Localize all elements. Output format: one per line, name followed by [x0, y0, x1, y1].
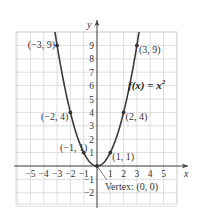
vertex-leader-line: [97, 166, 107, 180]
x-tick-label: 1: [108, 169, 113, 179]
data-point-marker: [69, 111, 73, 115]
y-tick-label: 5: [89, 95, 94, 105]
y-tick-label: 6: [89, 81, 94, 91]
y-tick-label: 9: [89, 41, 94, 51]
x-tick-label: −4: [39, 169, 49, 179]
point-label: (−3, 9): [28, 39, 55, 51]
point-label: Vertex: (0, 0): [105, 181, 158, 193]
point-label: (−1, 1): [60, 142, 87, 154]
x-tick-label: 4: [148, 169, 153, 179]
y-tick-label: 1: [89, 148, 94, 158]
y-tick-label: 8: [89, 54, 94, 64]
function-label: f(x) = x2: [128, 78, 166, 92]
y-tick-label: 2: [89, 135, 94, 145]
parabola-chart: −5−4−3−2−112345−2−1123456789 (−3, 9)(−2,…: [0, 0, 199, 213]
x-tick-label: 2: [121, 169, 126, 179]
point-label: (1, 1): [112, 151, 134, 163]
x-tick-label: 3: [135, 169, 140, 179]
x-tick-label: −5: [25, 169, 35, 179]
x-axis-label: x: [183, 168, 189, 179]
x-tick-label: −3: [52, 169, 62, 179]
x-tick-label: 5: [161, 169, 166, 179]
y-axis-label: y: [86, 19, 92, 30]
y-tick-label: −2: [84, 188, 94, 198]
point-label: (3, 9): [139, 44, 161, 56]
data-point-marker: [55, 44, 59, 48]
y-tick-label: −1: [84, 175, 94, 185]
point-label: (−2, 4): [41, 111, 68, 123]
x-tick-label: −2: [65, 169, 75, 179]
y-tick-label: 4: [89, 108, 94, 118]
y-tick-label: 3: [89, 121, 94, 131]
point-label: (2, 4): [126, 111, 148, 123]
y-tick-label: 7: [89, 68, 94, 78]
